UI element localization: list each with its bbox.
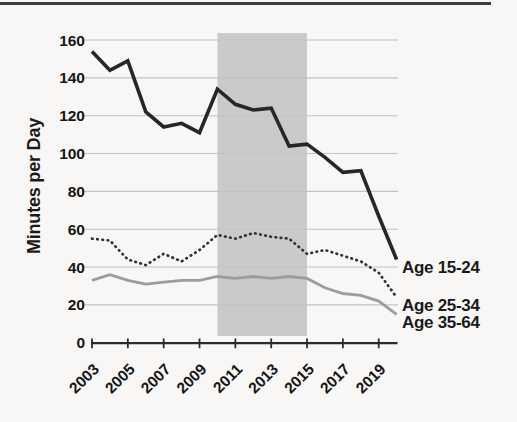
y-tick-label: 60 <box>68 221 85 238</box>
y-tick-label: 100 <box>59 145 85 162</box>
y-tick-label: 0 <box>76 334 85 351</box>
x-tick-label: 2019 <box>352 360 389 397</box>
x-tick-label: 2011 <box>210 360 246 396</box>
x-tick-label: 2009 <box>173 360 210 397</box>
x-tick-label: 2003 <box>66 360 103 397</box>
y-tick-label: 140 <box>59 69 85 86</box>
y-tick-label: 120 <box>59 107 85 124</box>
y-tick-label: 80 <box>68 183 85 200</box>
y-axis-title: Minutes per Day <box>24 96 46 276</box>
line-chart: 2003200520072009201120132015201720190204… <box>0 0 517 422</box>
x-tick-label: 2015 <box>281 360 318 397</box>
x-tick-label: 2007 <box>137 360 173 396</box>
x-tick-label: 2013 <box>245 360 282 397</box>
x-tick-label: 2005 <box>102 360 139 397</box>
figure-scan: 2003200520072009201120132015201720190204… <box>0 0 517 422</box>
series-label-age-35-64: Age 35-64 <box>402 313 480 333</box>
y-tick-label: 160 <box>59 32 85 49</box>
highlight-band <box>217 33 307 336</box>
y-tick-label: 40 <box>68 259 85 276</box>
x-tick-label: 2017 <box>317 360 353 396</box>
y-tick-label: 20 <box>68 296 85 313</box>
series-label-age-15-24: Age 15-24 <box>402 258 480 278</box>
